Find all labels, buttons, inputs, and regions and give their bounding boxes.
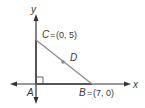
x-axis-right-arrow-icon	[124, 82, 131, 87]
point-c-coords: (0, 5)	[56, 30, 77, 40]
point-b-coords: (7, 0)	[93, 88, 114, 98]
point-a-label: A	[26, 87, 34, 98]
point-c-label: C	[42, 29, 50, 40]
x-axis-label: x	[132, 79, 139, 90]
point-c-equals: =	[50, 30, 55, 40]
y-axis-down-arrow-icon	[34, 97, 39, 104]
point-d-label: D	[70, 52, 77, 63]
x-axis-left-arrow-icon	[10, 82, 17, 87]
right-angle-marker-icon	[36, 77, 43, 84]
y-axis-up-arrow-icon	[34, 14, 39, 21]
point-d-dot-icon	[61, 60, 65, 64]
point-b-label: B	[79, 87, 86, 98]
y-axis-label: y	[30, 4, 37, 15]
coordinate-diagram: y x C = (0, 5) D A B = (7, 0)	[0, 0, 145, 108]
point-b-equals: =	[87, 88, 92, 98]
